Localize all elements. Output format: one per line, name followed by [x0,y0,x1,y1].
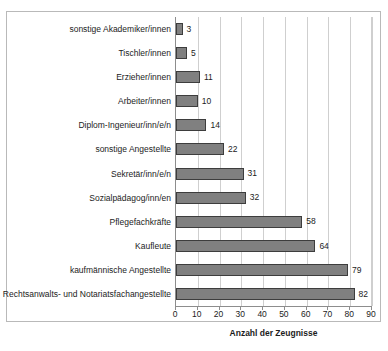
bar-row[interactable]: sonstige Akademiker/innen3 [176,23,372,35]
chart-frame: sonstige Akademiker/innen3Tischler/innen… [6,11,381,322]
bar-value-label: 58 [306,217,315,226]
x-axis-title: Anzahl der Zeugnisse [175,328,372,338]
bar-row[interactable]: Pflegefachkräfte58 [176,216,372,228]
x-axis-ticks: 0102030405060708090 [175,310,372,322]
bar-value-label: 5 [191,49,196,58]
category-label: Tischler/innen [118,49,171,58]
bar-row[interactable]: Rechtsanwalts- und Notariatsfachangestel… [176,288,372,300]
x-tick-label: 50 [279,310,288,319]
bar[interactable] [176,71,200,83]
bar-row[interactable]: sonstige Angestellte22 [176,143,372,155]
category-label: Sozialpädagog/inn/en [89,193,171,202]
x-tick-label: 20 [214,310,223,319]
bar-row[interactable]: Sozialpädagog/inn/en32 [176,192,372,204]
category-label: Erzieher/innen [116,73,171,82]
bar-row[interactable]: Kaufleute64 [176,240,372,252]
chart-screenshot: sonstige Akademiker/innen3Tischler/innen… [0,0,388,351]
x-tick-label: 90 [366,310,375,319]
x-tick-label: 30 [236,310,245,319]
plot-area: sonstige Akademiker/innen3Tischler/innen… [175,17,372,307]
category-label: Kaufleute [135,242,171,251]
bar[interactable] [176,143,224,155]
bar-value-label: 82 [359,290,368,299]
bar-row[interactable]: Sekretär/inn/e/n31 [176,168,372,180]
bar-row[interactable]: Tischler/innen5 [176,47,372,59]
bar[interactable] [176,240,315,252]
bar-row[interactable]: Arbeiter/innen10 [176,95,372,107]
category-label: kaufmännische Angestellte [70,266,171,275]
bar[interactable] [176,216,302,228]
bar[interactable] [176,288,355,300]
category-label: Rechtsanwalts- und Notariatsfachangestel… [3,290,171,299]
bar-value-label: 22 [228,145,237,154]
category-label: sonstige Angestellte [95,145,171,154]
bar[interactable] [176,192,246,204]
bar-row[interactable]: kaufmännische Angestellte79 [176,264,372,276]
x-tick-label: 60 [301,310,310,319]
bar-value-label: 64 [319,242,328,251]
bar-row[interactable]: Diplom-Ingenieur/inn/e/n14 [176,119,372,131]
x-tick-label: 10 [192,310,201,319]
bar-value-label: 11 [204,73,213,82]
category-label: sonstige Akademiker/innen [69,25,171,34]
x-tick-label: 80 [344,310,353,319]
bar[interactable] [176,23,183,35]
bar-value-label: 10 [202,97,211,106]
bar[interactable] [176,119,206,131]
gridline [372,17,373,306]
bar[interactable] [176,264,348,276]
category-label: Diplom-Ingenieur/inn/e/n [78,121,171,130]
category-label: Pflegefachkräfte [110,217,171,226]
bar-value-label: 14 [210,121,219,130]
category-label: Arbeiter/innen [118,97,171,106]
bar-value-label: 3 [187,25,192,34]
x-tick-label: 70 [323,310,332,319]
bar-row[interactable]: Erzieher/innen11 [176,71,372,83]
x-tick-label: 40 [257,310,266,319]
category-label: Sekretär/inn/e/n [111,169,171,178]
bar-rows: sonstige Akademiker/innen3Tischler/innen… [176,17,372,306]
bar[interactable] [176,168,244,180]
bar-value-label: 79 [352,266,361,275]
bar[interactable] [176,95,198,107]
x-tick-label: 0 [173,310,178,319]
bar[interactable] [176,47,187,59]
bar-value-label: 32 [250,193,259,202]
clipped-header-text [0,0,388,5]
bar-value-label: 31 [248,169,257,178]
